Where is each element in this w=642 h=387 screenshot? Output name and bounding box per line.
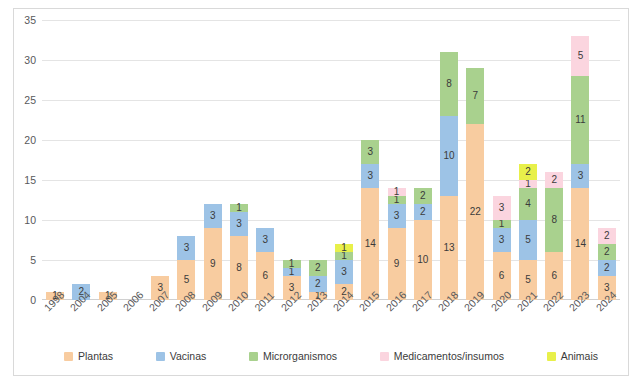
bar-segment[interactable]: 2 bbox=[519, 164, 537, 180]
bar-value-label: 4 bbox=[525, 199, 531, 209]
bar-group[interactable]: 3222 bbox=[594, 20, 620, 300]
bar-segment[interactable]: 1 bbox=[388, 196, 406, 204]
bar-group[interactable]: 2 bbox=[68, 20, 94, 300]
bar-segment[interactable]: 5 bbox=[571, 36, 589, 76]
bar-segment[interactable]: 14 bbox=[571, 188, 589, 300]
bar-value-label: 1 bbox=[236, 203, 242, 213]
bar-stack[interactable]: 1433 bbox=[361, 140, 379, 300]
bar-group[interactable]: 9311 bbox=[383, 20, 409, 300]
bar-group[interactable]: 63 bbox=[252, 20, 278, 300]
bar-group[interactable]: 227 bbox=[462, 20, 488, 300]
bar-segment[interactable]: 1 bbox=[388, 188, 406, 196]
bar-segment[interactable]: 1 bbox=[283, 260, 301, 268]
bar-segment[interactable]: 3 bbox=[388, 204, 406, 228]
bar-segment[interactable]: 2 bbox=[598, 228, 616, 244]
x-axis-label-slot: 2004 bbox=[68, 301, 94, 347]
bar-segment[interactable]: 3 bbox=[177, 236, 195, 260]
bar-segment[interactable]: 3 bbox=[361, 164, 379, 188]
bar-group[interactable]: 3 bbox=[147, 20, 173, 300]
bar-segment[interactable]: 4 bbox=[519, 188, 537, 220]
bar-group[interactable]: 1433 bbox=[357, 20, 383, 300]
bar-stack[interactable]: 1022 bbox=[414, 188, 432, 300]
bar-segment[interactable]: 2 bbox=[598, 260, 616, 276]
legend-item-plantas[interactable]: Plantas bbox=[64, 350, 113, 362]
x-axis-label-slot: 2007 bbox=[147, 301, 173, 347]
bar-segment[interactable]: 3 bbox=[256, 228, 274, 252]
bar-segment[interactable]: 1 bbox=[335, 244, 353, 252]
bar-value-label: 3 bbox=[341, 267, 347, 277]
bar-stack[interactable]: 55412 bbox=[519, 164, 537, 300]
bar-value-label: 2 bbox=[420, 191, 426, 201]
bar-stack[interactable]: 13108 bbox=[440, 52, 458, 300]
x-axis-label-slot: 2012 bbox=[278, 301, 304, 347]
bar-segment[interactable]: 22 bbox=[466, 124, 484, 300]
bar-group[interactable]: 13108 bbox=[436, 20, 462, 300]
bar-group[interactable]: 93 bbox=[200, 20, 226, 300]
bar-value-label: 11 bbox=[575, 115, 585, 125]
bar-group[interactable]: 122 bbox=[305, 20, 331, 300]
x-axis-label-slot: 2017 bbox=[410, 301, 436, 347]
bar-segment[interactable]: 8 bbox=[545, 188, 563, 252]
bar-segment[interactable]: 1 bbox=[519, 180, 537, 188]
bar-group[interactable]: 143115 bbox=[567, 20, 593, 300]
bar-segment[interactable]: 2 bbox=[309, 260, 327, 276]
bar-segment[interactable]: 9 bbox=[204, 228, 222, 300]
bar-segment[interactable]: 2 bbox=[598, 244, 616, 260]
bar-segment[interactable]: 1 bbox=[493, 220, 511, 228]
bar-segment[interactable]: 3 bbox=[571, 164, 589, 188]
bar-segment[interactable]: 14 bbox=[361, 188, 379, 300]
bar-segment[interactable]: 2 bbox=[309, 276, 327, 292]
legend-label: Animais bbox=[561, 350, 598, 362]
bar-segment[interactable]: 3 bbox=[493, 196, 511, 220]
legend-item-animais[interactable]: Animais bbox=[547, 350, 598, 362]
legend-item-medicamentos-insumos[interactable]: Medicamentos/insumos bbox=[380, 350, 504, 362]
bar-stack[interactable]: 9311 bbox=[388, 188, 406, 300]
bar-segment[interactable]: 3 bbox=[204, 204, 222, 228]
bar-segment[interactable]: 13 bbox=[440, 196, 458, 300]
bar-stack[interactable]: 3222 bbox=[598, 228, 616, 300]
bar-segment[interactable]: 7 bbox=[466, 68, 484, 124]
bar-value-label: 2 bbox=[604, 247, 610, 257]
y-axis-tick-label: 0 bbox=[0, 294, 36, 306]
bar-group[interactable]: 2311 bbox=[331, 20, 357, 300]
bar-group[interactable]: 682 bbox=[541, 20, 567, 300]
bar-stack[interactable]: 143115 bbox=[571, 36, 589, 300]
bar-segment[interactable]: 10 bbox=[440, 116, 458, 196]
bar-segment[interactable]: 9 bbox=[388, 228, 406, 300]
bar-group[interactable]: 831 bbox=[226, 20, 252, 300]
bar-segment[interactable]: 8 bbox=[440, 52, 458, 116]
bar-stack[interactable]: 227 bbox=[466, 68, 484, 300]
legend-item-microrganismos[interactable]: Microrganismos bbox=[249, 350, 337, 362]
bar-stack[interactable]: 831 bbox=[230, 204, 248, 300]
bar-segment[interactable]: 3 bbox=[493, 228, 511, 252]
bar-stack[interactable]: 93 bbox=[204, 204, 222, 300]
bar-stack[interactable]: 682 bbox=[545, 172, 563, 300]
bar-group[interactable]: 1 bbox=[42, 20, 68, 300]
legend-item-vacinas[interactable]: Vacinas bbox=[156, 350, 207, 362]
legend-label: Plantas bbox=[78, 350, 113, 362]
bar-stack[interactable]: 63 bbox=[256, 228, 274, 300]
bar-value-label: 1 bbox=[289, 259, 295, 269]
bar-segment[interactable]: 3 bbox=[361, 140, 379, 164]
bar-segment[interactable]: 2 bbox=[545, 172, 563, 188]
x-axis-label-slot: 1998 bbox=[42, 301, 68, 347]
bar-group[interactable]: 311 bbox=[278, 20, 304, 300]
bar-segment[interactable]: 2 bbox=[414, 188, 432, 204]
bar-stack[interactable]: 6313 bbox=[493, 196, 511, 300]
bar-group[interactable]: 6313 bbox=[489, 20, 515, 300]
bar-group[interactable]: 1022 bbox=[410, 20, 436, 300]
bar-group[interactable]: 55412 bbox=[515, 20, 541, 300]
bar-segment[interactable]: 1 bbox=[230, 204, 248, 212]
bar-segment[interactable]: 10 bbox=[414, 220, 432, 300]
bar-segment[interactable]: 3 bbox=[335, 260, 353, 284]
bar-segment[interactable]: 1 bbox=[283, 268, 301, 276]
bar-segment[interactable]: 5 bbox=[519, 220, 537, 260]
bar-value-label: 1 bbox=[394, 187, 400, 197]
bar-group[interactable] bbox=[121, 20, 147, 300]
bar-segment[interactable]: 2 bbox=[414, 204, 432, 220]
bar-segment[interactable]: 3 bbox=[230, 212, 248, 236]
bar-segment[interactable]: 11 bbox=[571, 76, 589, 164]
bar-group[interactable]: 53 bbox=[173, 20, 199, 300]
bar-group[interactable]: 1 bbox=[95, 20, 121, 300]
bar-segment[interactable]: 1 bbox=[335, 252, 353, 260]
